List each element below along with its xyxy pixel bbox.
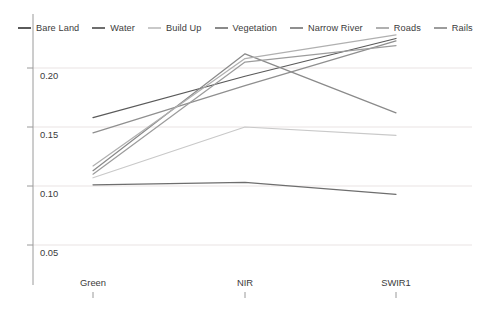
y-tick-label: 0.20 [40, 70, 58, 81]
series-line-rails [93, 46, 396, 175]
chart-figure: Bare LandWaterBuild UpVegetationNarrow R… [0, 0, 482, 315]
x-tick-label: SWIR1 [381, 277, 411, 288]
x-tick-label: Green [80, 277, 106, 288]
x-tick-label: NIR [237, 277, 253, 288]
y-tick-label: 0.05 [40, 247, 58, 258]
plot-area: 0.200.150.100.05GreenNIRSWIR1 [0, 0, 482, 315]
y-tick-label: 0.10 [40, 188, 58, 199]
line-chart-svg: 0.200.150.100.05GreenNIRSWIR1 [0, 0, 482, 315]
y-tick-label: 0.15 [40, 129, 58, 140]
series-line-vegetation [93, 54, 396, 171]
series-line-water [93, 182, 396, 194]
gridlines [33, 68, 472, 245]
series-line-build-up [93, 127, 396, 178]
